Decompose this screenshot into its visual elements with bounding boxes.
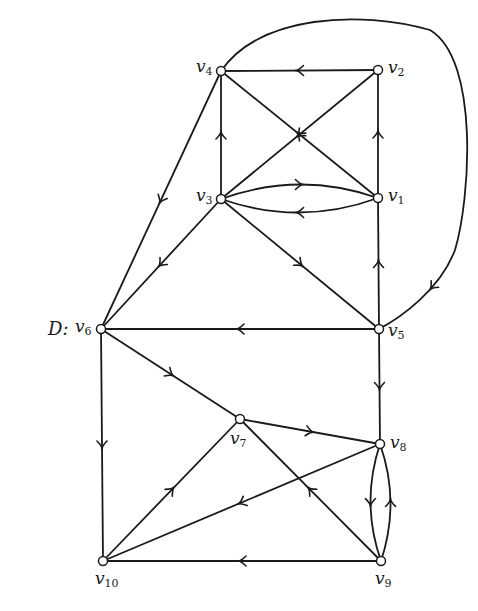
graph-name-label: D: (48, 318, 69, 339)
edge-v3-to-v5 (221, 199, 379, 329)
edge-v3-to-v6 (101, 199, 221, 329)
vertex-label-name: v (95, 568, 105, 588)
vertex-label-v7: v7 (230, 430, 247, 449)
vertex-v2 (374, 66, 383, 75)
vertex-label-v4: v4 (196, 58, 213, 77)
edge-v5-to-v1 (378, 198, 379, 329)
vertex-label-name: v (196, 56, 206, 76)
vertex-label-v2: v2 (388, 59, 405, 78)
nodes-layer (97, 66, 386, 566)
vertex-label-index: 5 (398, 329, 405, 342)
vertex-v9 (377, 557, 386, 566)
edge-v6-to-v7 (101, 329, 240, 419)
vertex-v6 (97, 325, 106, 334)
edge-v2-to-v4 (221, 70, 378, 71)
vertex-label-index: 7 (240, 437, 247, 450)
edge-v4-to-v5 (221, 19, 467, 329)
vertex-label-index: 3 (206, 194, 213, 207)
graph-canvas (0, 0, 478, 611)
vertex-label-v10: v10 (95, 570, 119, 589)
vertex-label-name: v (388, 57, 398, 77)
vertex-label-name: v (75, 316, 85, 336)
vertex-label-name: v (390, 432, 400, 452)
edges-layer (101, 19, 467, 561)
edge-v10-to-v7 (103, 419, 240, 561)
vertex-v10 (99, 557, 108, 566)
vertex-label-index: 4 (206, 65, 213, 78)
vertex-label-index: 8 (400, 441, 407, 454)
vertex-label-v9: v9 (375, 570, 392, 589)
vertex-label-v3: v3 (196, 187, 213, 206)
vertex-v7 (236, 415, 245, 424)
vertex-label-index: 10 (105, 577, 119, 590)
vertex-label-index: 6 (85, 325, 92, 338)
vertex-label-index: 2 (398, 66, 405, 79)
vertex-v4 (217, 67, 226, 76)
vertex-label-name: v (196, 185, 206, 205)
vertex-label-name: v (388, 185, 398, 205)
vertex-label-index: 1 (398, 194, 405, 207)
vertex-label-v6: v6 (75, 318, 92, 337)
vertex-label-name: v (375, 568, 385, 588)
vertex-v3 (217, 195, 226, 204)
edge-v8-to-v10 (103, 444, 380, 561)
vertex-label-v5: v5 (388, 322, 405, 341)
vertex-v8 (376, 440, 385, 449)
vertex-v1 (374, 194, 383, 203)
vertex-v5 (375, 325, 384, 334)
vertex-label-v8: v8 (390, 434, 407, 453)
vertex-label-name: v (230, 428, 240, 448)
vertex-label-name: v (388, 320, 398, 340)
edge-v5-to-v8 (379, 329, 380, 444)
vertex-label-index: 9 (385, 577, 392, 590)
vertex-label-v1: v1 (388, 187, 405, 206)
